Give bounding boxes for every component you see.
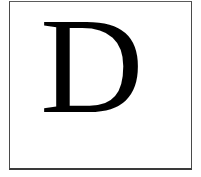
dropcap-letter: D: [40, 0, 144, 135]
dropcap-container: D: [9, 1, 192, 170]
scanned-page: D: [0, 0, 201, 177]
